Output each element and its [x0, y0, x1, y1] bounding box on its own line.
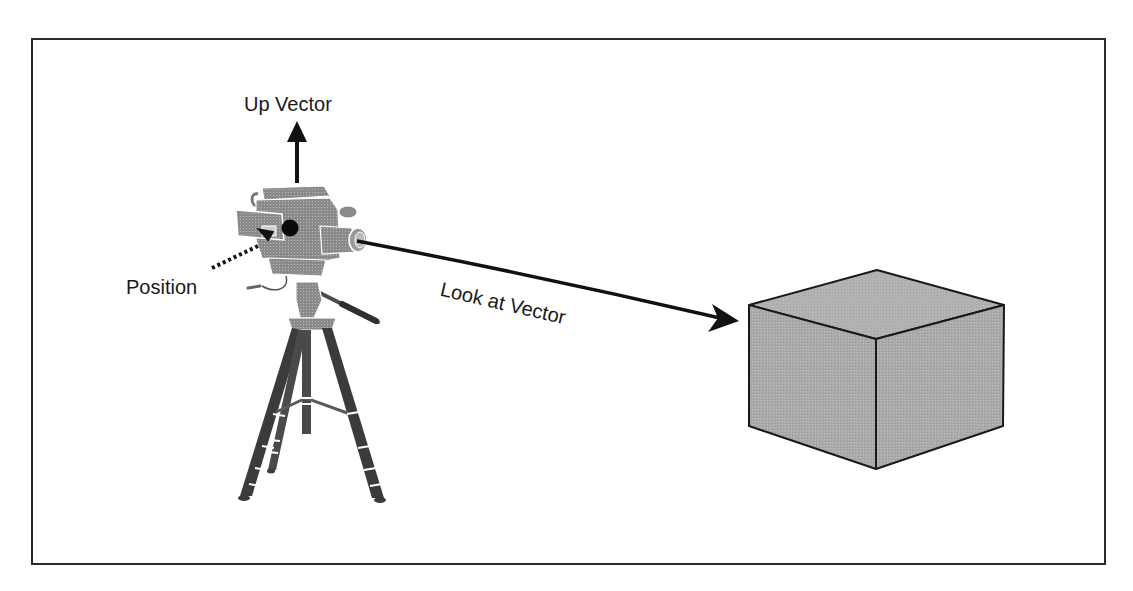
video-camera: [236, 186, 367, 290]
tripod-foot-right: [374, 497, 386, 503]
tripod: [238, 282, 386, 503]
tripod-center-column: [302, 330, 311, 434]
diagram-canvas: Up Vector Position Look at Vector: [0, 0, 1133, 591]
position-dot: [282, 220, 299, 237]
tripod-foot-left: [238, 495, 250, 501]
target-cube: [749, 270, 1004, 469]
up-vector-arrow: [287, 121, 307, 183]
position-label: Position: [126, 277, 197, 297]
tripod-head: [296, 282, 322, 318]
up-arrowhead-icon: [287, 121, 307, 142]
up-vector-label: Up Vector: [244, 94, 332, 114]
